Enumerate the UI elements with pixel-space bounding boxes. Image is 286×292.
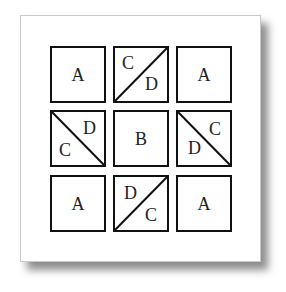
tile-label-lower-right: D xyxy=(145,75,158,93)
diagonal-line-icon xyxy=(178,112,230,165)
tile-r2-c2: A xyxy=(176,175,232,232)
tile-label-upper-left: D xyxy=(124,184,137,202)
tile-label: A xyxy=(52,66,104,84)
tile-label: A xyxy=(178,195,230,213)
tile-label-lower-right: C xyxy=(145,206,157,224)
tile-label: A xyxy=(52,195,104,213)
tile-r1-c1: B xyxy=(113,110,169,167)
tile-label-lower-left: C xyxy=(59,141,71,159)
tile-r0-c2: A xyxy=(176,46,232,103)
tile-label: B xyxy=(115,130,167,148)
tile-r2-c0: A xyxy=(50,175,106,232)
tile-r1-c2: C D xyxy=(176,110,232,167)
tile-label-upper-right: D xyxy=(83,119,96,137)
tile-r1-c0: D C xyxy=(50,110,106,167)
diagonal-line-icon xyxy=(115,177,167,230)
tile-label-upper-right: C xyxy=(209,120,221,138)
tile-r0-c1: C D xyxy=(113,46,169,103)
tile-r2-c1: D C xyxy=(113,175,169,232)
tile-label-lower-left: D xyxy=(188,139,201,157)
tile-r0-c0: A xyxy=(50,46,106,103)
tile-label-upper-left: C xyxy=(122,54,134,72)
tile-label: A xyxy=(178,66,230,84)
